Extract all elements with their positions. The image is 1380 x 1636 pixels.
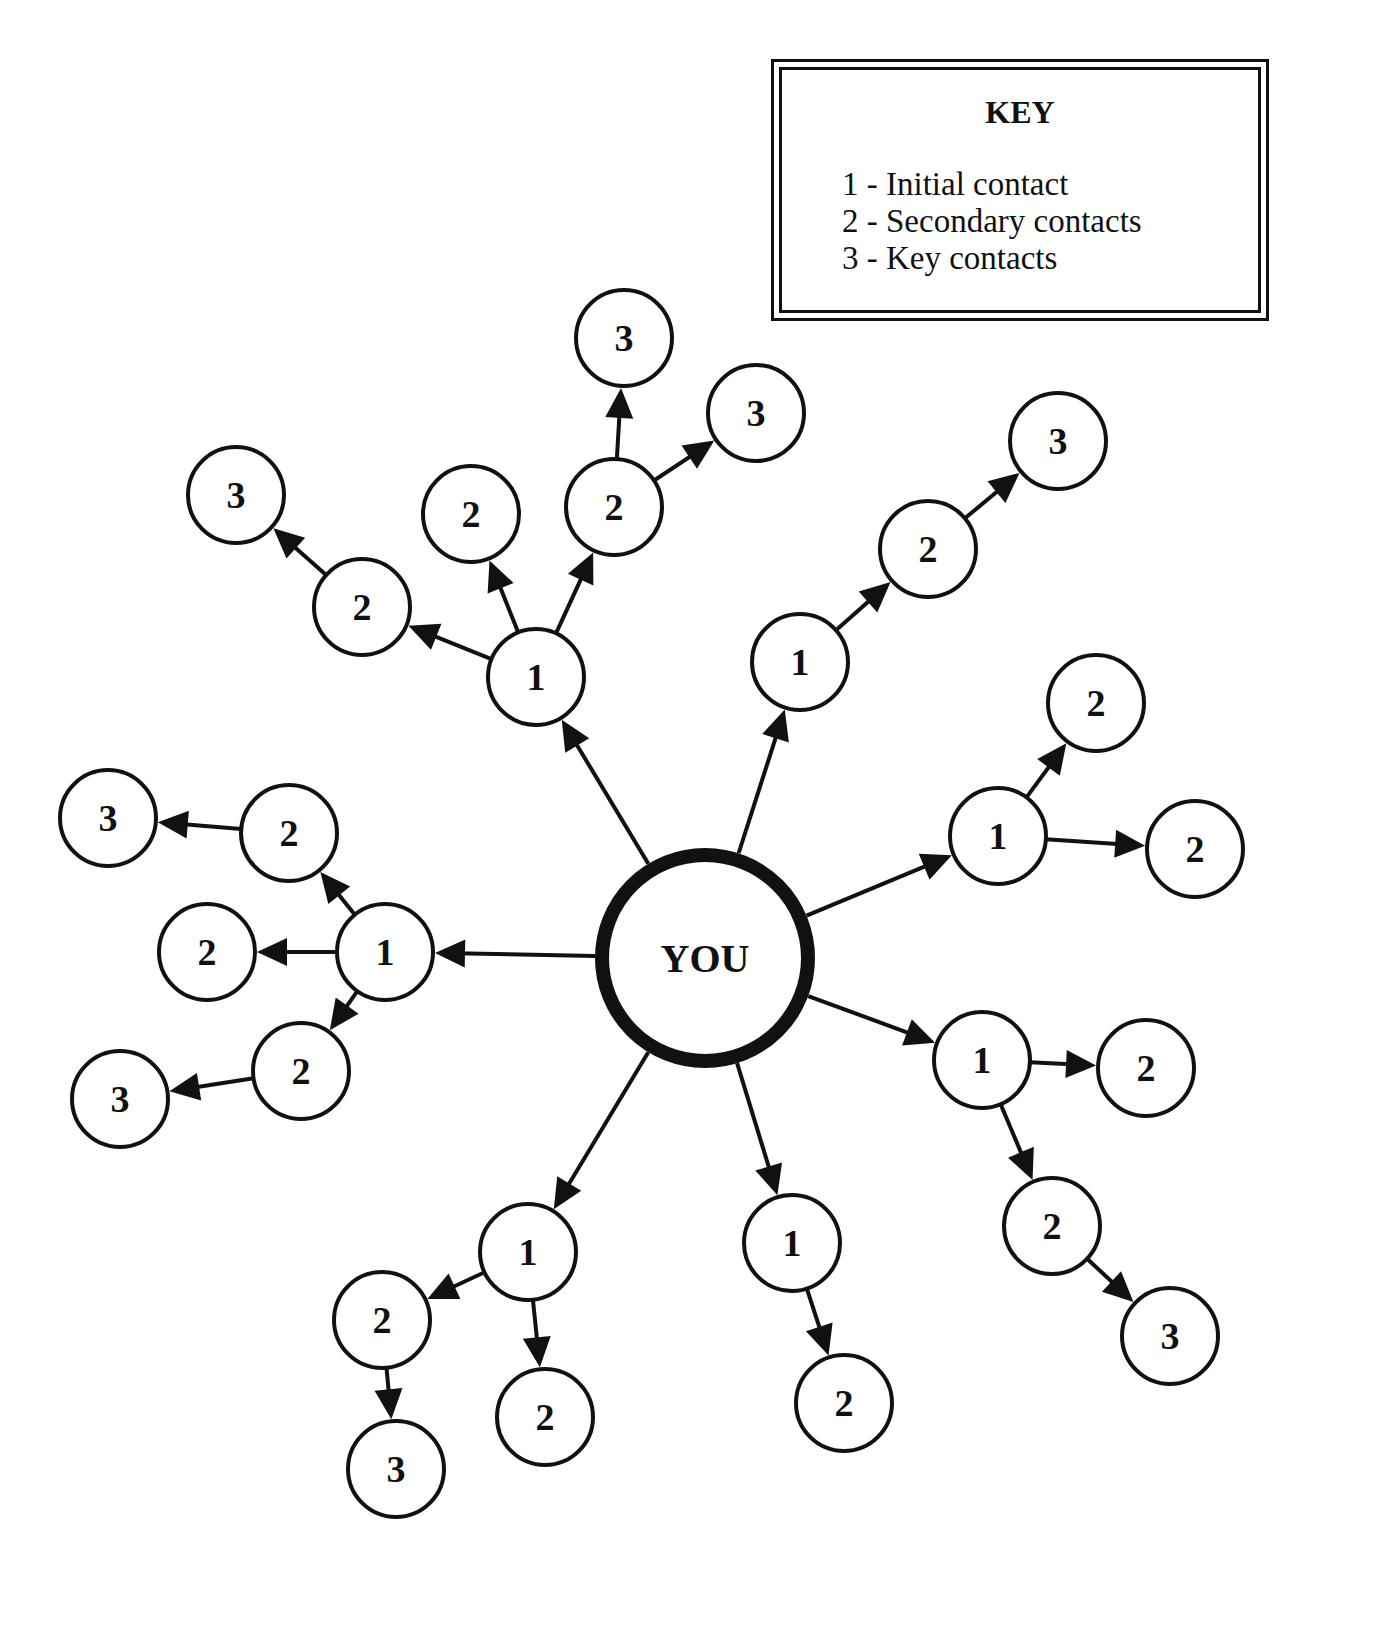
contact-node-level-3: 3 <box>72 1051 168 1147</box>
node-label: 3 <box>227 474 246 516</box>
connection-line <box>427 633 492 659</box>
node-label: 1 <box>519 1231 538 1273</box>
contact-node-level-3: 3 <box>188 447 284 543</box>
node-label: 3 <box>387 1448 406 1490</box>
legend-item-secondary: 2 - Secondary contacts <box>842 203 1142 240</box>
node-label: 2 <box>919 528 938 570</box>
arrowhead-icon <box>158 811 189 839</box>
contact-node-level-2: 2 <box>880 501 976 597</box>
connection-line <box>455 953 595 956</box>
contact-node-level-1: 1 <box>934 1012 1030 1108</box>
contact-node-level-2: 2 <box>1147 801 1243 897</box>
node-label: 2 <box>1186 828 1205 870</box>
legend-title: KEY <box>774 94 1266 131</box>
contact-node-level-2: 2 <box>253 1023 349 1119</box>
contact-node-level-1: 1 <box>488 629 584 725</box>
arrowhead-icon <box>330 998 359 1031</box>
arrowhead-icon <box>1037 743 1066 775</box>
contact-node-level-2: 2 <box>1098 1020 1194 1116</box>
contact-node-level-2: 2 <box>241 785 337 881</box>
contact-node-level-3: 3 <box>1122 1288 1218 1384</box>
node-label: 2 <box>1137 1047 1156 1089</box>
contact-node-level-2: 2 <box>334 1272 430 1368</box>
arrowhead-icon <box>523 1336 551 1367</box>
node-label: 3 <box>1161 1315 1180 1357</box>
contact-node-level-2: 2 <box>423 466 519 562</box>
contact-node-level-2: 2 <box>796 1355 892 1451</box>
arrowhead-icon <box>988 473 1020 503</box>
arrowhead-icon <box>806 1323 833 1356</box>
contact-node-level-1: 1 <box>744 1195 840 1291</box>
node-label: 2 <box>536 1396 555 1438</box>
node-label: 3 <box>747 392 766 434</box>
center-label: YOU <box>661 936 750 981</box>
arrowhead-icon <box>682 441 715 469</box>
connection-line <box>737 1063 771 1176</box>
node-label: 2 <box>835 1382 854 1424</box>
contact-node-level-2: 2 <box>497 1369 593 1465</box>
arrowhead-icon <box>554 1176 581 1209</box>
arrowhead-icon <box>605 388 633 419</box>
connection-line <box>739 729 779 854</box>
legend-list: 1 - Initial contact 2 - Secondary contac… <box>842 166 1142 277</box>
contact-node-level-2: 2 <box>159 904 255 1000</box>
arrowhead-icon <box>257 938 287 966</box>
connection-line <box>807 863 934 916</box>
node-label: 3 <box>615 317 634 359</box>
arrowhead-icon <box>762 710 789 743</box>
arrowhead-icon <box>320 872 350 904</box>
legend-item-key: 3 - Key contacts <box>842 240 1142 277</box>
node-label: 2 <box>1087 682 1106 724</box>
node-label: 2 <box>605 486 624 528</box>
connection-line <box>564 1052 648 1192</box>
node-label: 1 <box>791 641 810 683</box>
connection-line <box>808 996 916 1036</box>
node-label: 2 <box>292 1050 311 1092</box>
node-label: 3 <box>1049 420 1068 462</box>
contact-node-level-1: 1 <box>950 788 1046 884</box>
contact-node-level-2: 2 <box>1048 655 1144 751</box>
arrowhead-icon <box>375 1388 403 1419</box>
arrowhead-icon <box>562 720 589 753</box>
contact-node-level-1: 1 <box>337 904 433 1000</box>
legend-box: KEY 1 - Initial contact 2 - Secondary co… <box>771 59 1269 321</box>
node-label: 3 <box>111 1078 130 1120</box>
node-label: 1 <box>973 1039 992 1081</box>
contact-node-level-2: 2 <box>314 559 410 655</box>
node-label: 2 <box>1043 1205 1062 1247</box>
contact-node-level-3: 3 <box>708 365 804 461</box>
center-node: YOU <box>602 855 808 1061</box>
connection-line <box>556 571 585 634</box>
contact-node-level-3: 3 <box>348 1421 444 1517</box>
node-label: 2 <box>198 931 217 973</box>
node-label: 1 <box>527 656 546 698</box>
connection-line <box>1046 839 1125 844</box>
node-label: 2 <box>280 812 299 854</box>
node-label: 2 <box>373 1299 392 1341</box>
connection-line <box>572 737 648 864</box>
node-label: 2 <box>462 493 481 535</box>
node-label: 1 <box>989 815 1008 857</box>
contact-node-level-3: 3 <box>1010 393 1106 489</box>
node-label: 3 <box>99 797 118 839</box>
legend-item-initial: 1 - Initial contact <box>842 166 1142 203</box>
contact-node-level-3: 3 <box>60 770 156 866</box>
node-label: 1 <box>376 931 395 973</box>
node-label: 2 <box>353 586 372 628</box>
arrowhead-icon <box>1114 830 1145 858</box>
arrowhead-icon <box>169 1073 201 1101</box>
arrowhead-icon <box>755 1162 782 1195</box>
contact-node-level-1: 1 <box>752 614 848 710</box>
arrowhead-icon <box>435 940 465 968</box>
node-label: 1 <box>783 1222 802 1264</box>
contact-node-level-3: 3 <box>576 290 672 386</box>
contact-node-level-1: 1 <box>480 1204 576 1300</box>
contact-node-level-2: 2 <box>566 459 662 555</box>
arrowhead-icon <box>902 1019 935 1045</box>
arrowhead-icon <box>1065 1050 1096 1078</box>
contact-node-level-2: 2 <box>1004 1178 1100 1274</box>
